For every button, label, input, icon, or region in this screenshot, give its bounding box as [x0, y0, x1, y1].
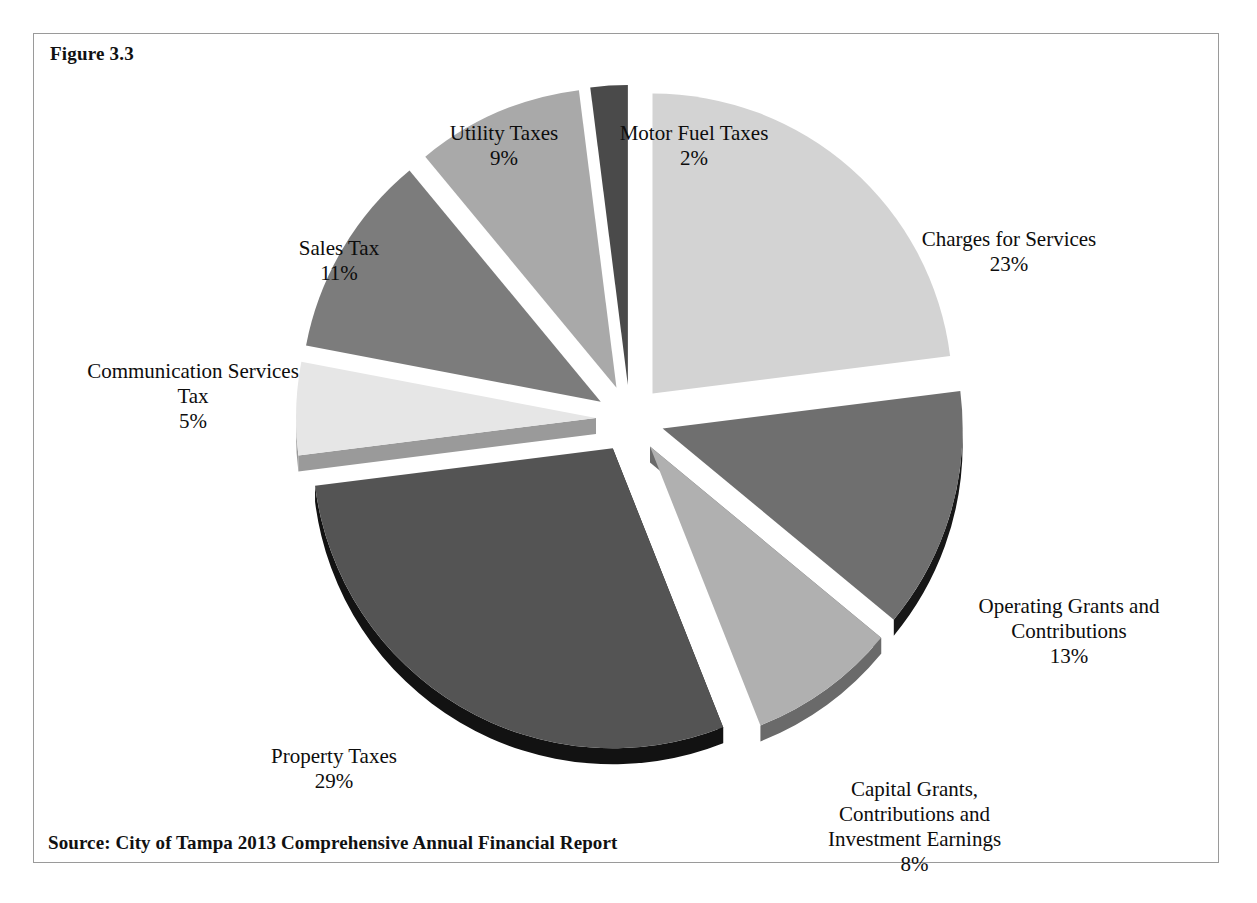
label-capital-grants-text: Capital Grants, Contributions and Invest…: [828, 777, 1001, 851]
label-communication-services-tax-percent: 5%: [48, 409, 338, 434]
label-motor-fuel-taxes: Motor Fuel Taxes 2%: [559, 96, 829, 196]
label-charges-for-services-percent: 23%: [869, 252, 1149, 277]
pie-chart: Utility Taxes 9% Motor Fuel Taxes 2% Cha…: [34, 34, 1220, 864]
figure-frame: Figure 3.3 Utility Taxes 9% Motor Fuel T…: [33, 33, 1219, 863]
label-capital-grants-percent: 8%: [782, 852, 1047, 877]
label-sales-tax-percent: 11%: [224, 261, 454, 286]
label-property-taxes-text: Property Taxes: [271, 744, 397, 768]
pie-slice-property-taxes: [315, 448, 723, 764]
label-property-taxes-percent: 29%: [209, 769, 459, 794]
slice-top-property-taxes: [315, 448, 723, 748]
label-capital-grants: Capital Grants, Contributions and Invest…: [782, 752, 1047, 902]
label-charges-for-services-text: Charges for Services: [922, 227, 1097, 251]
label-motor-fuel-taxes-percent: 2%: [559, 146, 829, 171]
label-utility-taxes-text: Utility Taxes: [450, 121, 558, 145]
label-sales-tax-text: Sales Tax: [299, 236, 379, 260]
label-charges-for-services: Charges for Services 23%: [869, 202, 1149, 302]
label-motor-fuel-taxes-text: Motor Fuel Taxes: [620, 121, 769, 145]
label-operating-grants-and-contributions-text: Operating Grants and Contributions: [979, 594, 1160, 643]
source-note: Source: City of Tampa 2013 Comprehensive…: [48, 832, 617, 854]
label-operating-grants-and-contributions-percent: 13%: [934, 644, 1204, 669]
label-operating-grants-and-contributions: Operating Grants and Contributions 13%: [934, 569, 1204, 694]
label-sales-tax: Sales Tax 11%: [224, 211, 454, 311]
label-communication-services-tax-text: Communication Services Tax: [87, 359, 299, 408]
label-communication-services-tax: Communication Services Tax 5%: [48, 334, 338, 459]
label-property-taxes: Property Taxes 29%: [209, 719, 459, 819]
